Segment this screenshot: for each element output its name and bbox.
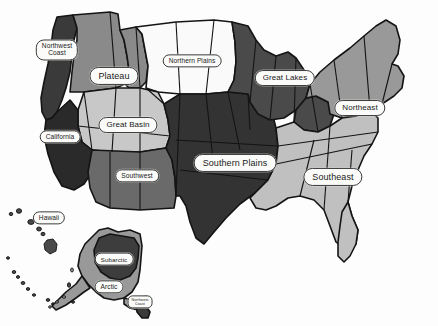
map-label-alaska-northwest-coast[interactable]: Northwest Coast [128,295,153,308]
map-label-california[interactable]: California [40,130,81,143]
map-label-southeast[interactable]: Southeast [303,168,362,186]
map-label-southern-plains[interactable]: Southern Plains [194,154,277,172]
map-label-great-basin[interactable]: Great Basin [98,117,157,133]
map-label-hawaii[interactable]: Hawaii [33,211,65,224]
map-label-northern-plains[interactable]: Northern Plains [163,54,222,67]
map-label-layer: Northwest Coast Plateau Northern Plains … [0,0,438,326]
map-label-great-lakes[interactable]: Great Lakes [255,70,315,86]
map-label-plateau[interactable]: Plateau [89,67,138,85]
map-label-subarctic[interactable]: Subarctic [95,253,134,266]
map-label-arctic[interactable]: Arctic [95,280,124,293]
culture-areas-map: Northwest Coast Plateau Northern Plains … [0,0,438,326]
map-label-northwest-coast[interactable]: Northwest Coast [36,39,78,60]
map-label-southwest[interactable]: Southwest [115,169,159,182]
map-label-northeast[interactable]: Northeast [334,100,385,116]
